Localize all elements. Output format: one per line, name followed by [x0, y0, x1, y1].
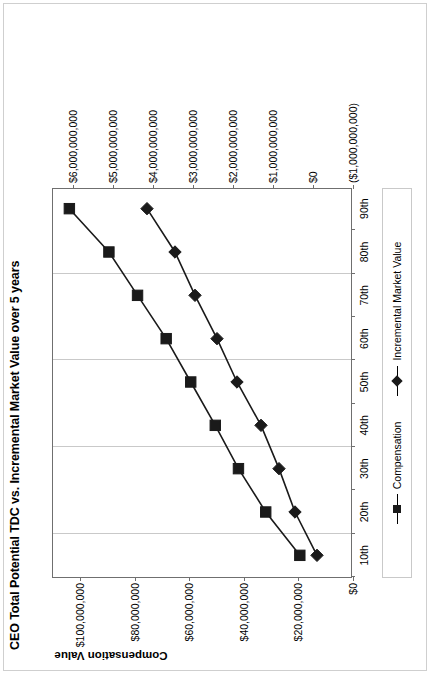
category-tick-label: 60th	[358, 328, 370, 348]
secondary-tick-label: $6,000,000,000	[67, 110, 79, 183]
primary-tick-label: $60,000,000	[183, 583, 195, 641]
data-point-diamond	[141, 202, 153, 214]
data-point-square	[295, 550, 305, 560]
primary-tick-label: $80,000,000	[129, 583, 141, 641]
data-point-diamond	[169, 246, 181, 258]
primary-tick-mark	[244, 577, 245, 581]
legend-item[interactable]: Compensation	[391, 422, 403, 525]
data-point-diamond	[289, 506, 301, 518]
secondary-tick-label: $4,000,000,000	[147, 110, 159, 183]
primary-tick-mark	[298, 577, 299, 581]
data-point-square	[132, 290, 142, 300]
primary-tick-label: $40,000,000	[238, 583, 250, 641]
primary-tick-mark	[135, 577, 136, 581]
series-plot	[53, 187, 353, 577]
data-point-square	[261, 507, 271, 517]
legend-label: Incremental Market Value	[391, 242, 403, 361]
primary-tick-mark	[353, 577, 354, 581]
legend-item[interactable]: Incremental Market Value	[391, 242, 403, 396]
primary-tick-mark	[189, 577, 190, 581]
data-point-square	[210, 420, 220, 430]
plot-area: $0$20,000,000$40,000,000$60,000,000$80,0…	[52, 188, 352, 578]
chart-canvas: CEO Total Potential TDC vs. Incremental …	[0, 0, 430, 674]
category-tick-label: 50th	[358, 372, 370, 392]
legend-label: Compensation	[391, 422, 403, 490]
category-tick-label: 80th	[358, 242, 370, 262]
secondary-tick-label: $0	[307, 171, 319, 183]
secondary-tick-mark	[353, 185, 354, 189]
data-point-square	[64, 203, 74, 213]
data-point-square	[186, 377, 196, 387]
data-point-diamond	[273, 462, 285, 474]
data-point-diamond	[211, 332, 223, 344]
primary-tick-label: $20,000,000	[292, 583, 304, 641]
legend-marker	[393, 505, 401, 513]
chart-title: CEO Total Potential TDC vs. Incremental …	[8, 0, 22, 674]
data-point-diamond	[231, 376, 243, 388]
secondary-tick-label: $1,000,000,000	[267, 110, 279, 183]
category-tick-label: 70th	[358, 285, 370, 305]
primary-axis-title: Compensation Value	[1, 650, 221, 662]
secondary-tick-label: $2,000,000,000	[227, 110, 239, 183]
data-point-diamond	[189, 289, 201, 301]
category-tick-label: 30th	[358, 458, 370, 478]
data-point-square	[104, 247, 114, 257]
legend-diamond-icon	[397, 366, 398, 396]
chart-legend: CompensationIncremental Market Value	[382, 188, 412, 578]
category-tick-label: 40th	[358, 415, 370, 435]
rotated-chart-wrapper: CEO Total Potential TDC vs. Incremental …	[0, 0, 430, 674]
category-tick-label: 20th	[358, 502, 370, 522]
chart-page: CEO Total Potential TDC vs. Incremental …	[0, 0, 430, 674]
data-point-diamond	[255, 419, 267, 431]
legend-marker	[391, 375, 402, 386]
category-tick-label: 10th	[358, 545, 370, 565]
primary-tick-mark	[80, 577, 81, 581]
data-point-square	[161, 333, 171, 343]
legend-square-icon	[397, 494, 398, 524]
secondary-tick-label: $3,000,000,000	[187, 110, 199, 183]
data-point-square	[233, 463, 243, 473]
secondary-tick-label: ($1,000,000,000)	[347, 103, 359, 183]
series-line	[69, 209, 299, 556]
category-tick-label: 90th	[358, 198, 370, 218]
secondary-tick-label: $5,000,000,000	[107, 110, 119, 183]
primary-tick-label: $100,000,000	[74, 583, 86, 647]
data-point-diamond	[311, 549, 323, 561]
primary-tick-label: $0	[347, 583, 359, 595]
